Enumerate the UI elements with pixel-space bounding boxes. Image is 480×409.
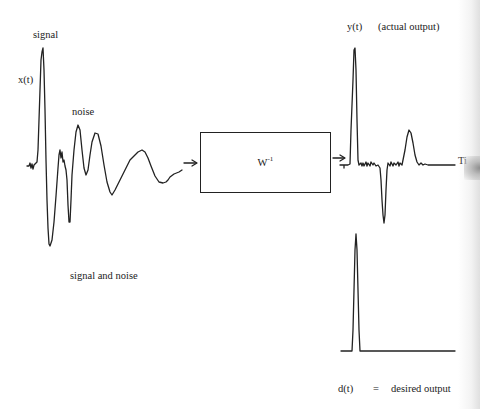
desired-output-label: desired output <box>391 383 451 395</box>
page-edge-blot <box>464 156 480 180</box>
actual-output-label: (actual output) <box>378 21 440 33</box>
page-edge-shadow <box>458 0 480 409</box>
inverse-filter-diagram: signal x(t) noise signal and noise W-1 y… <box>0 0 480 409</box>
actual-output-waveform <box>340 48 455 223</box>
x-axis-label: x(t) <box>18 74 33 86</box>
filter-label-exponent: -1 <box>268 155 274 163</box>
y-axis-label: y(t) <box>347 21 362 33</box>
noise-label: noise <box>72 106 94 118</box>
input-waveform <box>27 48 182 246</box>
equals-sign: = <box>373 383 379 395</box>
inverse-filter-block: W-1 <box>200 132 331 193</box>
signal-and-noise-caption: signal and noise <box>70 270 138 282</box>
waveforms <box>0 0 480 409</box>
filter-label: W-1 <box>201 155 330 168</box>
d-axis-label: d(t) <box>338 383 353 395</box>
signal-label: signal <box>33 29 58 41</box>
filter-label-base: W <box>258 157 268 168</box>
desired-output-waveform <box>341 234 455 351</box>
